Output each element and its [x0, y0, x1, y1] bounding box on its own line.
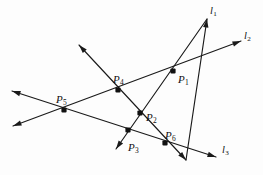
point-label-P1: P1	[178, 74, 189, 85]
lines-group	[12, 19, 241, 160]
arrowhead-l3-end	[207, 152, 216, 157]
arrowhead-l2-start	[13, 121, 22, 126]
point-label-base-P6: P	[165, 129, 172, 141]
line-label-l1: l1	[210, 6, 217, 17]
arrowhead-l2-end	[232, 41, 241, 46]
point-dot-P1	[170, 68, 175, 73]
arrowhead-l3-start	[12, 91, 21, 96]
arrowhead-l5-start	[116, 140, 123, 149]
point-label-base-P3: P	[128, 141, 135, 153]
point-label-base-P5: P	[56, 93, 63, 105]
line-label-l2: l2	[244, 31, 251, 42]
geometry-figure: P1P2P3P4P5P6 l1l2l3	[0, 0, 263, 175]
point-label-base-P1: P	[178, 73, 185, 85]
line-label-sub-l1: 1	[213, 10, 217, 18]
point-dot-P6	[162, 140, 167, 145]
point-label-sub-P6: 6	[172, 134, 176, 143]
line-label-sub-l2: 2	[247, 35, 251, 43]
point-label-P4: P4	[113, 74, 124, 85]
point-label-sub-P5: 5	[63, 98, 67, 107]
line-label-l3: l3	[222, 145, 229, 156]
point-label-P2: P2	[146, 112, 157, 123]
point-label-sub-P4: 4	[120, 78, 124, 87]
point-label-P5: P5	[56, 94, 67, 105]
point-label-P3: P3	[128, 142, 139, 153]
point-label-base-P4: P	[113, 73, 120, 85]
line-l2	[13, 41, 241, 126]
arrowheads-group	[12, 19, 241, 160]
line-l3	[12, 91, 216, 157]
point-dot-P2	[137, 110, 142, 115]
point-label-sub-P3: 3	[135, 146, 139, 155]
point-dot-P3	[125, 127, 130, 132]
point-label-base-P2: P	[146, 111, 153, 123]
point-dot-P5	[61, 107, 66, 112]
point-dot-P4	[115, 87, 120, 92]
point-label-sub-P2: 2	[153, 116, 157, 125]
line-l1	[186, 19, 207, 160]
point-label-P6: P6	[165, 130, 176, 141]
point-label-sub-P1: 1	[185, 78, 189, 87]
line-label-sub-l3: 3	[225, 149, 229, 157]
